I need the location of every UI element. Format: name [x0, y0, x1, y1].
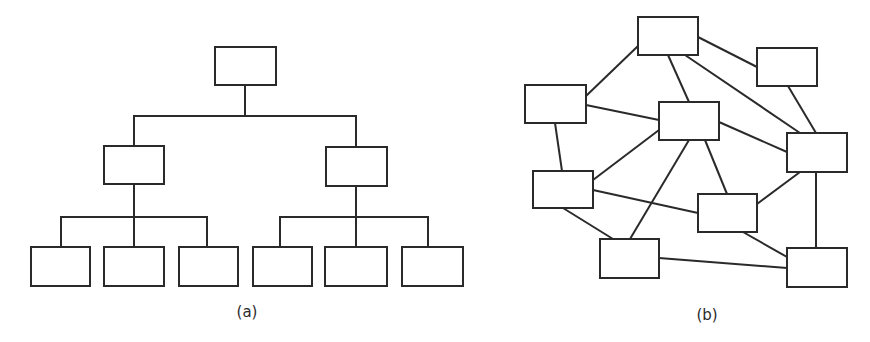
tree-node-l3	[179, 247, 238, 286]
edge-n1-n3	[586, 46, 638, 96]
hierarchy-tree-diagram	[31, 47, 463, 286]
caption-b: (b)	[696, 306, 717, 324]
graph-node-n2	[757, 48, 817, 86]
edge-n4-n8	[630, 140, 689, 239]
diagram-canvas	[0, 0, 870, 342]
edge-n5-n7	[757, 172, 800, 204]
edge-n8-n9	[659, 258, 787, 268]
edge-n6-n7	[593, 190, 698, 213]
edge-n4-n6	[593, 130, 659, 180]
tree-node-l2	[104, 247, 164, 286]
tree-node-r2	[325, 247, 387, 286]
graph-node-n3	[525, 85, 586, 123]
edge-n2-n5	[788, 86, 816, 133]
edge-n6-n8	[563, 208, 613, 239]
edge-n4-n5	[719, 122, 787, 152]
tree-node-l	[104, 146, 164, 184]
edge-n3-n6	[555, 123, 562, 171]
edge-n4-n7	[705, 140, 727, 194]
graph-node-n8	[600, 239, 659, 278]
tree-node-root	[215, 47, 276, 85]
edge-n1-n4	[668, 55, 689, 102]
edge-n3-n4	[586, 105, 659, 120]
tree-node-l1	[31, 247, 90, 286]
graph-node-n4	[659, 102, 719, 140]
tree-node-r3	[402, 247, 463, 286]
network-graph-diagram	[525, 17, 847, 287]
graph-node-n1	[638, 17, 698, 55]
tree-node-r1	[253, 247, 312, 286]
edge-n1-n2	[698, 37, 757, 67]
graph-node-n5	[787, 133, 847, 172]
edge-n7-n9	[743, 232, 787, 257]
graph-node-n9	[787, 248, 847, 287]
graph-node-n6	[533, 171, 593, 208]
tree-node-r	[326, 147, 387, 186]
caption-a: (a)	[237, 303, 258, 321]
graph-node-n7	[698, 194, 757, 232]
